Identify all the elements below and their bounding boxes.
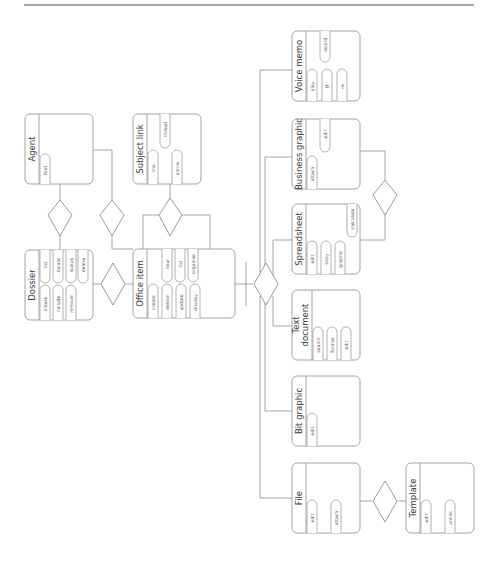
operation-label: thread — [163, 122, 168, 137]
operation-label: attach — [310, 167, 315, 182]
entity-title: document — [300, 303, 310, 347]
operation-rw[interactable]: rw — [337, 69, 347, 101]
operation-include[interactable]: include — [53, 285, 63, 320]
operation-display[interactable]: display — [190, 284, 200, 318]
operation-thread[interactable]: thread — [160, 114, 170, 148]
operation-record[interactable]: record — [320, 31, 330, 62]
entity-title: Spreadsheet — [294, 212, 304, 266]
operation-organise[interactable]: organise — [188, 249, 198, 282]
diamond-office-subtypes — [254, 263, 278, 305]
operation-ff[interactable]: ff — [322, 69, 332, 101]
operation-label: delete — [165, 295, 170, 310]
operation-edit[interactable]: edit — [320, 119, 330, 152]
operation-label: remove — [69, 295, 74, 313]
operation-label: hour — [165, 259, 170, 270]
entity-title: Voice memo — [294, 40, 304, 92]
operation-unlink[interactable]: unlink — [445, 500, 455, 533]
operation-label: organise — [191, 254, 196, 274]
diamond-business-graphic-spreadsheet — [373, 180, 397, 215]
entity-text-document[interactable]: Textdocumentsearchformatedit — [291, 290, 360, 360]
diamond-dossier-office-item — [101, 263, 125, 305]
operation-label: display — [193, 294, 198, 311]
operation-label: create — [43, 297, 48, 312]
operation-create[interactable]: create — [148, 284, 158, 318]
operation-label: graphic — [338, 250, 343, 268]
entity-file[interactable]: Fileeditattach — [292, 463, 360, 533]
operation-status[interactable]: status — [66, 250, 76, 283]
operation-edit[interactable]: edit — [341, 327, 351, 360]
entity-office-item[interactable]: Office itemcreatedeleteupdatedisplayhour… — [133, 249, 235, 318]
operation-edit[interactable]: edit — [307, 241, 317, 274]
operation-list[interactable]: list — [40, 250, 50, 283]
operation-edit[interactable]: edit — [421, 500, 431, 533]
operation-label: create — [151, 295, 156, 310]
diamond-agent-dossier — [48, 200, 72, 236]
operation-label: locate — [56, 258, 61, 272]
operation-label: edit — [344, 340, 349, 349]
operation-calculate[interactable]: calculate — [347, 204, 357, 237]
entity-template[interactable]: Templateeditunlink — [406, 463, 474, 533]
entity-title: Bit graphic — [294, 388, 304, 434]
entity-title: File — [294, 491, 304, 505]
operation-delete[interactable]: delete — [162, 284, 172, 318]
operation-label: status — [69, 257, 74, 272]
operation-label: update — [179, 294, 184, 310]
operation-update[interactable]: update — [176, 284, 186, 318]
operation-label: unlink — [448, 511, 453, 525]
operation-edit[interactable]: edit — [307, 500, 317, 533]
operation-copy[interactable]: copy — [321, 241, 331, 274]
entity-subject-link[interactable]: Subject linklinkunlinkthread — [133, 114, 201, 184]
diamond-file-template — [373, 481, 397, 522]
operation-label: copy — [324, 253, 329, 264]
operation-attach[interactable]: attach — [331, 500, 341, 533]
operation-search[interactable]: search — [313, 327, 323, 360]
operation-format[interactable]: format — [327, 327, 337, 360]
entity-dossier[interactable]: Dossiercreateincluderemovelistlocatestat… — [25, 250, 93, 320]
operation-graphic[interactable]: graphic — [335, 241, 345, 274]
entity-title: Dossier — [27, 269, 37, 301]
operation-label: list — [43, 261, 48, 268]
operation-remove[interactable]: remove — [66, 285, 76, 320]
operation-label: delete — [81, 258, 86, 273]
operation-unlink[interactable]: unlink — [172, 150, 182, 184]
operation-label: edit — [310, 513, 315, 522]
operation-delete[interactable]: delete — [78, 250, 88, 283]
operation-label: edit — [310, 426, 315, 435]
operation-hour[interactable]: hour — [162, 249, 172, 282]
operation-label: format — [330, 337, 335, 353]
entity-title: Agent — [27, 136, 37, 162]
operation-label: link — [151, 164, 156, 172]
entity-title: Business graphic — [294, 118, 304, 190]
operation-edit[interactable]: edit — [307, 413, 317, 446]
operation-label: unlink — [175, 161, 180, 175]
operation-locate[interactable]: locate — [53, 250, 63, 283]
operation-create[interactable]: create — [40, 285, 50, 320]
entity-voice-memo[interactable]: Voice memoplayffrwrecord — [292, 31, 360, 101]
operation-label: search — [316, 337, 321, 352]
entity-spreadsheet[interactable]: Spreadsheeteditcopygraphiccalculate — [292, 204, 360, 274]
operation-label: find — [43, 166, 48, 175]
diamond-agent-office-item — [100, 200, 124, 236]
operation-label: play — [310, 81, 315, 91]
operation-attach[interactable]: attach — [307, 156, 317, 189]
entity-title: Template — [408, 479, 418, 519]
operation-label: edit — [424, 513, 429, 522]
operation-label: edit — [323, 129, 328, 138]
operation-find[interactable]: find — [40, 154, 50, 184]
operation-label: edit — [310, 254, 315, 263]
operation-play[interactable]: play — [307, 69, 317, 101]
diamond-subject-link — [159, 198, 182, 236]
operation-list[interactable]: list — [175, 249, 185, 282]
entity-relationship-diagram: AgentfindSubject linklinkunlinkthreadDos… — [0, 0, 498, 567]
entity-bit-graphic[interactable]: Bit graphicedit — [292, 376, 360, 446]
entity-business-graphic[interactable]: Business graphicattachedit — [292, 118, 360, 190]
operation-label: rw — [340, 83, 345, 89]
entity-title: Subject link — [135, 124, 145, 174]
entity-agent[interactable]: Agentfind — [25, 114, 93, 184]
operation-label: calculate — [350, 208, 355, 229]
operation-link[interactable]: link — [148, 150, 158, 184]
operation-label: record — [323, 38, 328, 53]
entities: AgentfindSubject linklinkunlinkthreadDos… — [25, 31, 474, 533]
operation-label: include — [56, 296, 61, 313]
operation-label: list — [178, 260, 183, 267]
